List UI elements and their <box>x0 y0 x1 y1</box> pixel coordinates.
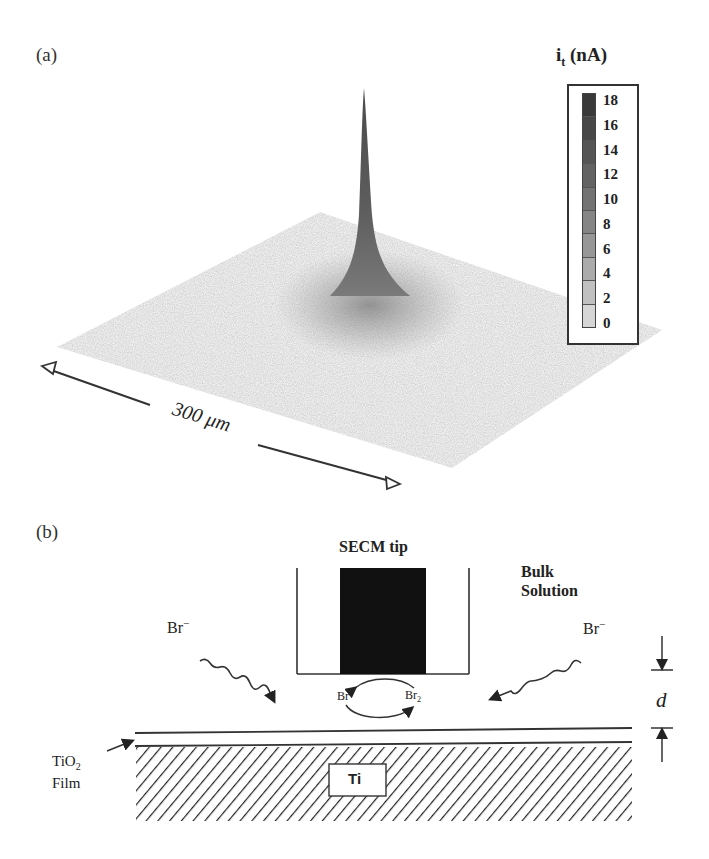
br-ion-right: Br− <box>583 618 605 638</box>
br-diffusion-right <box>491 660 581 699</box>
tip-label: SECM tip <box>339 538 408 556</box>
colorbar <box>582 93 596 328</box>
colorbar-legend: 18 16 14 12 10 8 6 4 2 0 <box>567 84 639 345</box>
cycle-br-minus: Br− <box>337 688 354 704</box>
tio2-film-label: TiO2 Film <box>52 753 81 792</box>
bulk-solution-label: Bulk Solution <box>521 562 578 600</box>
tip-electrode <box>340 568 426 674</box>
scale-label: 300 μm <box>169 397 234 437</box>
br-ion-left: Br− <box>167 617 189 637</box>
cycle-br2: Br2 <box>405 688 421 704</box>
br-diffusion-left <box>200 659 274 701</box>
ti-substrate-label: Ti <box>348 770 361 787</box>
distance-label: d <box>656 688 667 713</box>
colorbar-ticks: 18 16 14 12 10 8 6 4 2 0 <box>603 92 633 332</box>
tio2-film-top <box>135 728 632 733</box>
colorbar-title: it (nA) <box>556 44 607 70</box>
